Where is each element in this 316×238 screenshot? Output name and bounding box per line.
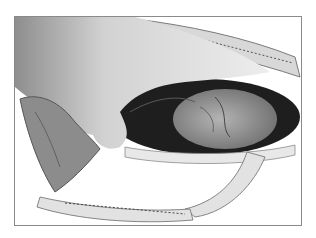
surgical-illustration (15, 17, 302, 226)
figure-frame (14, 16, 302, 226)
